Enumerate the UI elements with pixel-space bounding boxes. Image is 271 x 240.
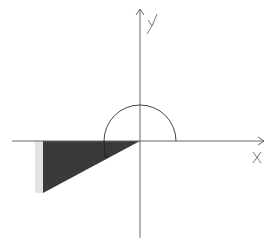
y-axis-label: Y	[150, 29, 151, 30]
y-label-glyph	[147, 14, 157, 34]
shaded-triangle	[43, 141, 140, 193]
triangle-edge-highlight	[35, 141, 43, 193]
diagram-canvas: Y X	[0, 0, 271, 240]
x-label-glyph	[253, 152, 261, 163]
